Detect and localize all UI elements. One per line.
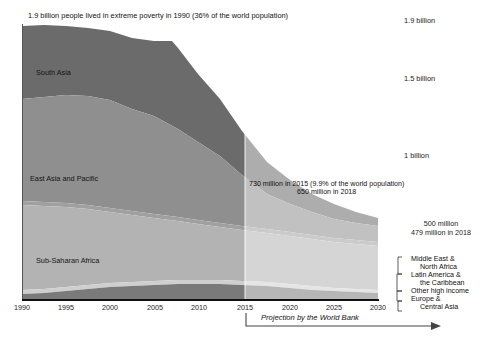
- legend-item-other-high-income[interactable]: Other high income: [404, 287, 469, 295]
- region-label-south-asia: South Asia: [36, 68, 71, 77]
- x-tick-2015: 2015: [237, 303, 253, 312]
- annotation-2015-2018: 730 million in 2015 (9.9% of the world p…: [249, 180, 404, 196]
- x-tick-2020: 2020: [282, 303, 298, 312]
- chart-title: 1.9 billion people lived in extreme pove…: [28, 12, 288, 20]
- legend-item-europe-central-asia[interactable]: Europe & Central Asia: [404, 295, 469, 311]
- x-tick-1995: 1995: [58, 303, 74, 312]
- x-tick-2025: 2025: [326, 303, 342, 312]
- right-label-500-million-group: 500 million 479 million in 2018: [399, 219, 483, 237]
- right-label-1-9-billion: 1.9 billion: [404, 16, 435, 25]
- legend-label-latin-america-line2: the Caribbean: [411, 279, 469, 287]
- region-label-east-asia-and-pacific: East Asia and Pacific: [30, 174, 98, 183]
- chart-figure: 1.9 billion people lived in extreme pove…: [0, 0, 488, 337]
- region-label-sub-saharan-africa: Sub-Saharan Africa: [36, 256, 99, 265]
- projection-label: Projection by the World Bank: [261, 313, 359, 322]
- legend-label-latin-america-line1: Latin America &: [411, 271, 461, 279]
- x-tick-2000: 2000: [102, 303, 118, 312]
- legend-label-other-high-income: Other high income: [411, 287, 469, 295]
- legend-label-middle-east-line1: Middle East &: [411, 255, 455, 263]
- x-tick-1990: 1990: [14, 303, 30, 312]
- legend: Middle East & North Africa Latin America…: [404, 255, 469, 311]
- annotation-line-650-million: 650 million in 2018: [249, 188, 404, 196]
- right-label-500-million: 500 million: [399, 219, 483, 228]
- right-label-1-5-billion: 1.5 billion: [404, 74, 435, 83]
- legend-item-latin-america-caribbean[interactable]: Latin America & the Caribbean: [404, 271, 469, 287]
- legend-label-middle-east-line2: North Africa: [411, 263, 469, 271]
- y-axis-line: [22, 24, 23, 300]
- projection-bracket: Projection by the World Bank: [245, 312, 450, 334]
- legend-item-middle-east-north-africa[interactable]: Middle East & North Africa: [404, 255, 469, 271]
- projection-veil: [245, 24, 378, 300]
- x-tick-2005: 2005: [147, 303, 163, 312]
- legend-label-europe-line2: Central Asia: [411, 303, 469, 311]
- x-tick-2010: 2010: [191, 303, 207, 312]
- x-axis-line: [22, 299, 379, 301]
- right-label-1-billion: 1 billion: [404, 151, 429, 160]
- x-tick-2030: 2030: [370, 303, 386, 312]
- right-label-479-million-2018: 479 million in 2018: [399, 228, 483, 237]
- legend-label-europe-line1: Europe &: [411, 295, 441, 303]
- annotation-line-730-million: 730 million in 2015 (9.9% of the world p…: [249, 180, 404, 188]
